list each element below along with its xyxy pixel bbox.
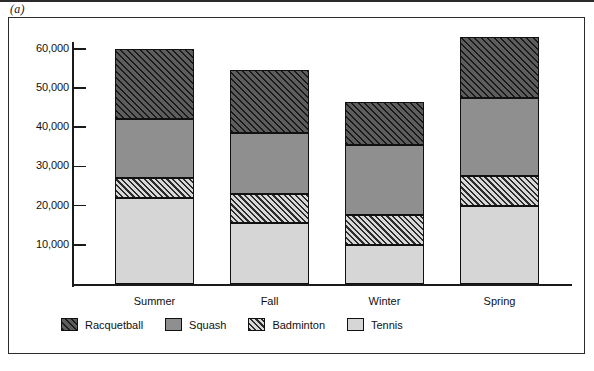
y-axis-tick	[74, 205, 86, 207]
bar-segment-badminton[interactable]	[460, 176, 539, 205]
legend-swatch-tennis	[347, 318, 364, 331]
legend-label: Tennis	[371, 319, 403, 331]
legend-swatch-squash	[165, 318, 182, 331]
y-axis-tick-label: 40,000	[13, 120, 69, 132]
legend-item-squash[interactable]: Squash	[165, 318, 226, 331]
y-axis-line	[72, 42, 74, 287]
legend-item-badminton[interactable]: Badminton	[248, 318, 325, 331]
x-axis-category-label: Fall	[210, 295, 330, 307]
bar-segment-squash[interactable]	[115, 119, 194, 178]
y-axis-tick-label: 60,000	[13, 42, 69, 54]
figure-label: (a)	[10, 2, 25, 17]
bar-segment-squash[interactable]	[460, 98, 539, 176]
legend-label: Squash	[189, 319, 226, 331]
bar-segment-badminton[interactable]	[230, 194, 309, 223]
plot-area: 60,00050,00040,00030,00020,00010,000 Sum…	[9, 18, 586, 355]
y-axis-tick	[74, 166, 86, 168]
y-axis-tick-label: 10,000	[13, 238, 69, 250]
stacked-bar[interactable]	[115, 49, 194, 284]
stacked-bar[interactable]	[230, 70, 309, 284]
legend-item-tennis[interactable]: Tennis	[347, 318, 403, 331]
x-axis-category-label: Winter	[325, 295, 445, 307]
y-axis-tick-label: 50,000	[13, 81, 69, 93]
chart-frame: 60,00050,00040,00030,00020,00010,000 Sum…	[8, 17, 585, 354]
legend-swatch-racquetball	[61, 318, 78, 331]
x-axis-category-label: Spring	[440, 295, 560, 307]
legend-swatch-badminton	[248, 318, 265, 331]
bar-segment-tennis[interactable]	[345, 245, 424, 284]
bar-segment-racquetball[interactable]	[230, 70, 309, 133]
legend-label: Racquetball	[85, 319, 143, 331]
y-axis-tick-label: 30,000	[13, 159, 69, 171]
bar-segment-tennis[interactable]	[460, 206, 539, 284]
y-axis-tick	[74, 126, 86, 128]
page-top-rule	[0, 0, 594, 2]
x-axis-line	[72, 284, 572, 286]
x-axis-category-label: Summer	[95, 295, 215, 307]
bar-segment-racquetball[interactable]	[115, 49, 194, 120]
bar-segment-tennis[interactable]	[230, 223, 309, 284]
y-axis-tick	[74, 48, 86, 50]
legend-label: Badminton	[272, 319, 325, 331]
y-axis-tick	[74, 87, 86, 89]
stacked-bar[interactable]	[345, 102, 424, 284]
bar-segment-badminton[interactable]	[115, 178, 194, 198]
chart-legend: RacquetballSquashBadmintonTennis	[61, 318, 425, 331]
y-axis-tick-label: 20,000	[13, 199, 69, 211]
bar-segment-racquetball[interactable]	[345, 102, 424, 145]
bar-segment-badminton[interactable]	[345, 215, 424, 244]
y-axis-labels: 60,00050,00040,00030,00020,00010,000	[9, 18, 69, 355]
bar-segment-tennis[interactable]	[115, 198, 194, 284]
bar-segment-squash[interactable]	[230, 133, 309, 194]
stacked-bar[interactable]	[460, 37, 539, 284]
y-axis-tick	[74, 244, 86, 246]
bar-segment-racquetball[interactable]	[460, 37, 539, 98]
legend-item-racquetball[interactable]: Racquetball	[61, 318, 143, 331]
bar-segment-squash[interactable]	[345, 145, 424, 216]
